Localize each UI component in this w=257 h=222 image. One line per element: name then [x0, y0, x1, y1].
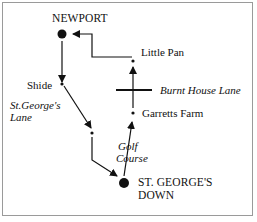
st-georges-down-marker-icon [119, 178, 129, 188]
burnt-house-lane-label: Burnt House Lane [160, 84, 241, 96]
garretts-farm-label: Garretts Farm [142, 107, 203, 119]
garretts-farm-marker-icon [131, 111, 134, 114]
shide-marker-icon [60, 82, 63, 85]
st-georges-lane-label-line1: St.George's [10, 99, 61, 111]
shide-label: Shide [27, 79, 52, 91]
route-segment-littlepan-newport [73, 34, 132, 57]
golf-course-label-line1: Golf [118, 140, 138, 152]
st-georges-down-label-line1: ST. GEORGE'S [138, 176, 213, 188]
little-pan-marker-icon [131, 59, 134, 62]
little-pan-label: Little Pan [141, 46, 184, 58]
st-georges-down-label-line2: DOWN [138, 189, 174, 201]
route-segment-lane-down [92, 137, 117, 176]
route-segment-shide-lane [64, 86, 91, 128]
st-georges-lane-label-line2: Lane [10, 111, 32, 123]
newport-marker-icon [58, 30, 67, 39]
lane-waypoint-marker-icon [90, 131, 93, 134]
route-map-drawing [0, 0, 257, 222]
golf-course-label-line2: Course [116, 152, 148, 164]
newport-label: NEWPORT [52, 12, 108, 24]
